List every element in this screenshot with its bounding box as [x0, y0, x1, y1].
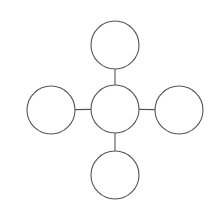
hub-spoke-diagram: [0, 0, 221, 215]
node-left-circle: [27, 86, 75, 134]
circle-nodes: [27, 21, 203, 199]
node-right-circle: [155, 86, 203, 134]
diagram-canvas: [0, 0, 221, 215]
node-bottom-circle: [91, 151, 139, 199]
node-top-circle: [91, 21, 139, 69]
node-center-circle: [91, 85, 139, 133]
